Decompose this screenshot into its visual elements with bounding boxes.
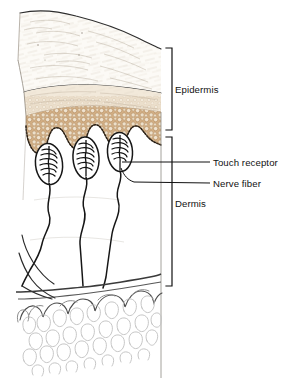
epidermis-bracket (166, 48, 172, 130)
receptor-1-core-fiber (48, 146, 49, 182)
subcutaneous-fat-layer (17, 290, 162, 376)
receptor-2-core-fiber (85, 140, 86, 176)
dermis-bracket (166, 137, 172, 286)
label-dermis: Dermis (175, 198, 206, 209)
label-nerve-fiber: Nerve fiber (213, 178, 261, 189)
fat-lobules (23, 296, 162, 376)
label-touch-receptor: Touch receptor (213, 157, 278, 168)
skin-cross-section-figure: Epidermis Dermis Touch receptor Nerve fi… (0, 0, 307, 383)
skin-diagram-svg (0, 0, 307, 383)
label-epidermis: Epidermis (175, 84, 219, 95)
